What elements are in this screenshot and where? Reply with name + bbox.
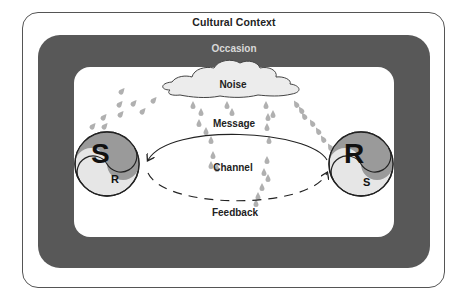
sender-big-letter: S bbox=[91, 140, 110, 168]
noise-drops-left bbox=[89, 86, 159, 130]
communication-model-graphic bbox=[0, 0, 468, 299]
noise-label: Noise bbox=[183, 79, 283, 90]
sender-small-letter: R bbox=[111, 174, 119, 185]
noise-drops-right bbox=[292, 99, 334, 151]
feedback-label: Feedback bbox=[185, 207, 285, 218]
receiver-small-letter: S bbox=[363, 177, 370, 188]
receiver-big-letter: R bbox=[344, 140, 364, 168]
channel-label: Channel bbox=[183, 162, 283, 173]
noise-drops-center bbox=[191, 101, 276, 207]
message-label: Message bbox=[184, 118, 284, 129]
feedback-arrow bbox=[148, 173, 327, 201]
message-arrow bbox=[148, 134, 327, 160]
